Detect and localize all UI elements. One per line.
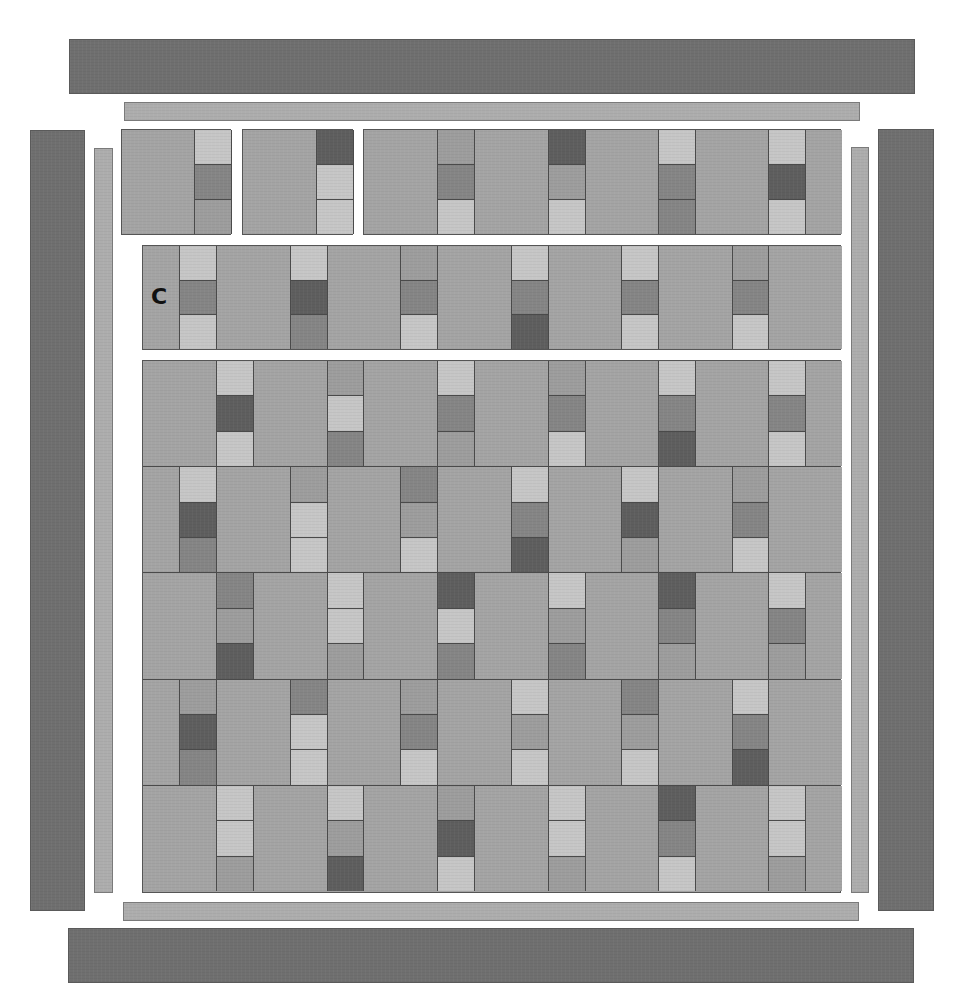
patch-strip: [733, 680, 769, 785]
patch-strip: [438, 786, 475, 891]
patch-strip: [512, 467, 549, 572]
background-square: [143, 573, 217, 678]
background-square: [806, 786, 842, 891]
patch-cell-M: [328, 361, 363, 396]
background-square: [586, 573, 659, 678]
patch-cell-M: [401, 503, 437, 538]
patch-cell-L: [401, 315, 437, 349]
background-square: [143, 361, 217, 466]
background-square: [806, 573, 842, 678]
patch-cell-L: [195, 130, 231, 165]
patch-cell-L: [512, 750, 548, 784]
patch-cell-K: [659, 821, 695, 856]
patch-cell-L: [291, 246, 327, 281]
background-square: [806, 361, 842, 466]
patch-cell-M: [438, 432, 474, 466]
patch-cell-M: [195, 200, 231, 234]
patch-cell-L: [328, 573, 363, 608]
patch-cell-M: [769, 857, 805, 891]
patch-cell-L: [549, 200, 585, 234]
patch-cell-D: [512, 315, 548, 349]
patch-cell-M: [512, 715, 548, 750]
background-square: [475, 573, 549, 678]
patch-cell-L: [401, 750, 437, 784]
inner-border-bottom: [123, 902, 859, 921]
patch-strip: [659, 361, 696, 466]
patch-strip: [438, 130, 475, 234]
patch-cell-M: [659, 644, 695, 678]
patch-cell-K: [401, 467, 437, 502]
patch-cell-L: [217, 361, 253, 396]
patch-strip: [401, 680, 438, 785]
background-square: [549, 246, 622, 349]
patch-strip: [328, 573, 364, 678]
patch-strip: [217, 361, 254, 466]
patch-cell-L: [291, 715, 327, 750]
patch-strip: [180, 467, 217, 572]
patch-cell-K: [512, 281, 548, 316]
patch-strip: [769, 786, 806, 891]
background-square: [659, 680, 733, 785]
patch-cell-L: [438, 200, 474, 234]
patch-strip: [328, 361, 364, 466]
background-square: [364, 786, 438, 891]
patch-cell-K: [438, 644, 474, 678]
patch-cell-L: [217, 786, 253, 821]
patch-cell-M: [438, 786, 474, 821]
main-grid-row-1: [143, 361, 840, 467]
patch-cell-L: [328, 396, 363, 431]
patch-cell-D: [512, 538, 548, 572]
patch-cell-L: [317, 200, 353, 234]
patch-cell-M: [549, 857, 585, 891]
patch-strip: [769, 361, 806, 466]
background-square: [438, 680, 512, 785]
patch-strip: [622, 680, 659, 785]
patch-cell-M: [328, 821, 363, 856]
patch-cell-D: [291, 281, 327, 316]
background-square: [438, 246, 512, 349]
patch-cell-L: [769, 573, 805, 608]
patch-cell-D: [659, 573, 695, 608]
patch-strip: [291, 467, 328, 572]
background-square: [586, 130, 659, 234]
patch-cell-L: [328, 786, 363, 821]
patch-strip: [180, 246, 217, 349]
patch-cell-L: [512, 467, 548, 502]
patch-strip: [622, 246, 659, 349]
patch-cell-L: [438, 857, 474, 891]
patch-strip: [195, 130, 232, 234]
patch-cell-M: [733, 246, 768, 281]
patch-cell-D: [438, 821, 474, 856]
background-square: [769, 246, 842, 349]
patch-cell-L: [328, 609, 363, 644]
patch-strip: [317, 130, 354, 234]
patch-cell-L: [769, 786, 805, 821]
background-square: [254, 573, 328, 678]
patch-cell-L: [659, 857, 695, 891]
patch-cell-L: [180, 315, 216, 349]
background-square: [217, 246, 291, 349]
outer-border-left: [30, 130, 85, 911]
background-square: [696, 573, 769, 678]
patch-cell-K: [438, 396, 474, 431]
patch-strip: [769, 130, 806, 234]
patch-strip: [659, 573, 696, 678]
patch-cell-L: [438, 361, 474, 396]
patch-cell-L: [549, 786, 585, 821]
background-square: [475, 786, 549, 891]
patch-cell-M: [291, 467, 327, 502]
patch-cell-L: [769, 200, 805, 234]
patch-cell-K: [401, 715, 437, 750]
patch-cell-M: [328, 644, 363, 678]
patch-strip: [512, 246, 549, 349]
background-square: [769, 467, 842, 572]
background-square: [328, 246, 401, 349]
background-square: [586, 786, 659, 891]
block-label: C: [151, 284, 167, 309]
patch-cell-L: [549, 573, 585, 608]
patch-cell-L: [317, 165, 353, 200]
background-square: [328, 680, 401, 785]
patch-cell-L: [769, 361, 805, 396]
patch-cell-L: [769, 130, 805, 165]
patch-strip: [438, 573, 475, 678]
